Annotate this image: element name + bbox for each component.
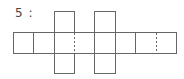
cube-net-diagram [0,0,184,79]
flap-bottom-1 [55,54,75,74]
flap-top-1 [55,12,75,33]
flap-bottom-2 [95,54,116,74]
flap-top-2 [95,12,116,33]
